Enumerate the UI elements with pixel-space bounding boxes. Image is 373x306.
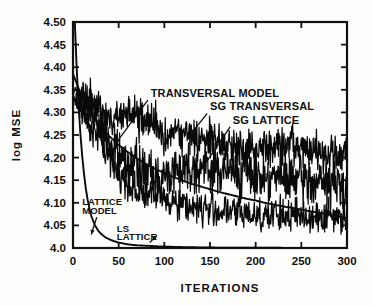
annotation-lattice-model-line2: MODEL	[82, 205, 117, 216]
annotation-sg-transversal: SG TRANSVERSAL	[210, 100, 314, 112]
x-tick-label: 200	[246, 255, 265, 267]
x-tick-label: 150	[200, 255, 219, 267]
y-tick-label: 4.20	[44, 152, 66, 164]
x-tick-label: 50	[112, 255, 125, 267]
x-tick-label: 0	[70, 255, 76, 267]
y-tick-label: 4.30	[44, 106, 66, 118]
x-axis-title: ITERATIONS	[181, 282, 260, 294]
y-tick-label: 4.0	[50, 242, 66, 254]
line-chart: TRANSVERSAL MODELSG TRANSVERSALSG LATTIC…	[0, 0, 373, 306]
y-tick-label: 4.15	[44, 174, 67, 186]
y-tick-label: 4.25	[44, 129, 67, 141]
y-tick-label: 4.40	[44, 61, 66, 73]
x-tick-label: 250	[292, 255, 311, 267]
figure-container: TRANSVERSAL MODELSG TRANSVERSALSG LATTIC…	[0, 0, 373, 306]
y-tick-label: 4.05	[44, 219, 67, 231]
x-tick-label: 300	[337, 255, 356, 267]
y-tick-label: 4.45	[44, 39, 67, 51]
x-tick-label: 100	[155, 255, 174, 267]
y-tick-label: 4.10	[44, 197, 66, 209]
y-axis-title: log MSE	[10, 109, 22, 161]
y-tick-label: 4.35	[44, 84, 67, 96]
y-tick-label: 4.50	[44, 16, 66, 28]
annotation-sg-lattice: SG LATTICE	[233, 114, 300, 126]
annotation-transversal-model: TRANSVERSAL MODEL	[151, 87, 280, 99]
